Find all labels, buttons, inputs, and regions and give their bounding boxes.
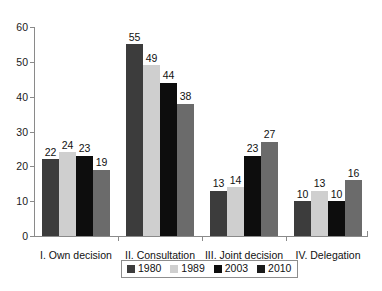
y-tick-label: 40 (16, 91, 28, 102)
bar[interactable] (328, 201, 345, 236)
bar-value-label: 16 (348, 168, 360, 179)
bar-slot: 13 (311, 27, 328, 236)
bar[interactable] (143, 65, 160, 236)
legend-swatch-icon (257, 265, 265, 273)
bar-group: 13142327III. Joint decision (210, 27, 278, 236)
bar-slot: 44 (160, 27, 177, 236)
bar-slot: 55 (126, 27, 143, 236)
category-separator-tick (202, 236, 203, 241)
y-tick-label: 60 (16, 22, 28, 33)
bar-value-label: 10 (297, 189, 309, 200)
y-tick-mark (30, 27, 34, 28)
bar-value-label: 23 (79, 143, 91, 154)
bar-slot: 16 (345, 27, 362, 236)
bar[interactable] (244, 156, 261, 236)
category-separator-tick (286, 236, 287, 241)
chart-legend: 1980198920032010 (121, 260, 298, 278)
y-tick-mark (30, 97, 34, 98)
bar-slot: 23 (76, 27, 93, 236)
bars-container: 10131016 (294, 27, 362, 236)
y-tick-mark (30, 132, 34, 133)
bar-slot: 10 (328, 27, 345, 236)
legend-swatch-icon (170, 265, 178, 273)
y-tick-label: 20 (16, 161, 28, 172)
category-label: III. Joint decision (205, 250, 283, 261)
bar[interactable] (210, 191, 227, 236)
category-separator-tick (118, 236, 119, 241)
axis-end-tick (34, 231, 35, 237)
bar[interactable] (160, 83, 177, 236)
bar[interactable] (76, 156, 93, 236)
bar[interactable] (345, 180, 362, 236)
bar[interactable] (93, 170, 110, 236)
legend-item[interactable]: 1989 (170, 263, 204, 274)
bar-group: 22242319I. Own decision (42, 27, 110, 236)
bar-value-label: 49 (146, 53, 158, 64)
bar-slot: 38 (177, 27, 194, 236)
bar-slot: 14 (227, 27, 244, 236)
legend-item[interactable]: 2010 (257, 263, 291, 274)
bar-group: 55494438II. Consultation (126, 27, 194, 236)
legend-swatch-icon (214, 265, 222, 273)
y-tick-mark (30, 62, 34, 63)
bar-value-label: 44 (163, 70, 175, 81)
bar-value-label: 13 (213, 178, 225, 189)
bar-value-label: 38 (180, 91, 192, 102)
legend-swatch-icon (127, 265, 135, 273)
bar-slot: 23 (244, 27, 261, 236)
legend-label: 1980 (138, 263, 161, 274)
bar[interactable] (177, 104, 194, 236)
bars-container: 22242319 (42, 27, 110, 236)
axis-end-tick (367, 231, 368, 237)
bar-chart: 0102030405060 22242319I. Own decision554… (0, 0, 382, 291)
bar-slot: 49 (143, 27, 160, 236)
bar-slot: 13 (210, 27, 227, 236)
legend-label: 2010 (268, 263, 291, 274)
plot-area: 0102030405060 22242319I. Own decision554… (34, 20, 368, 240)
y-axis-line (34, 27, 35, 236)
y-tick-mark (30, 201, 34, 202)
bar-group: 10131016IV. Delegation (294, 27, 362, 236)
legend-item[interactable]: 1980 (127, 263, 161, 274)
legend-label: 1989 (181, 263, 204, 274)
y-tick-label: 50 (16, 57, 28, 68)
category-label: II. Consultation (125, 250, 195, 261)
y-tick-mark (30, 166, 34, 167)
bar[interactable] (59, 152, 76, 236)
x-axis-line (34, 236, 368, 237)
y-tick-label: 10 (16, 196, 28, 207)
bars-container: 13142327 (210, 27, 278, 236)
bar[interactable] (294, 201, 311, 236)
bar-value-label: 14 (230, 175, 242, 186)
bar-value-label: 23 (247, 143, 259, 154)
bar-slot: 19 (93, 27, 110, 236)
bar-value-label: 22 (45, 147, 57, 158)
bar[interactable] (227, 187, 244, 236)
bar-slot: 22 (42, 27, 59, 236)
bar-value-label: 19 (96, 157, 108, 168)
legend-label: 2003 (225, 263, 248, 274)
bar-slot: 10 (294, 27, 311, 236)
bar-value-label: 27 (264, 129, 276, 140)
bar-value-label: 10 (331, 189, 343, 200)
bar[interactable] (126, 44, 143, 236)
bar[interactable] (261, 142, 278, 236)
y-tick-label: 30 (16, 126, 28, 137)
bar[interactable] (311, 191, 328, 236)
category-label: IV. Delegation (296, 250, 361, 261)
y-tick-label: 0 (22, 231, 28, 242)
bar-slot: 27 (261, 27, 278, 236)
bar-value-label: 24 (62, 140, 74, 151)
bar-value-label: 55 (129, 32, 141, 43)
bars-container: 55494438 (126, 27, 194, 236)
bar[interactable] (42, 159, 59, 236)
bar-slot: 24 (59, 27, 76, 236)
bar-value-label: 13 (314, 178, 326, 189)
category-label: I. Own decision (40, 250, 112, 261)
legend-item[interactable]: 2003 (214, 263, 248, 274)
